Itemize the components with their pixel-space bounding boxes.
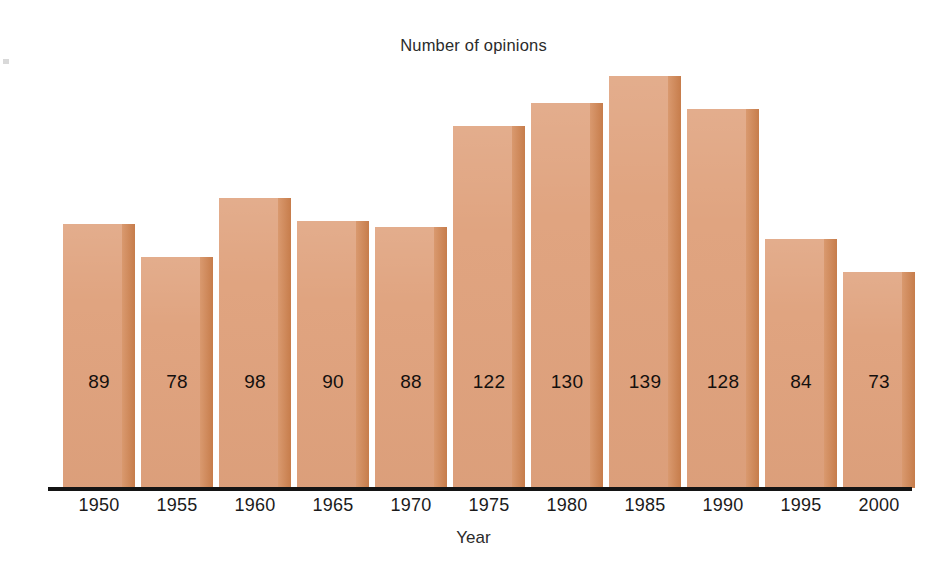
bar-value-label: 98 bbox=[219, 371, 291, 393]
bar-face bbox=[453, 126, 512, 488]
bar-value-label: 139 bbox=[609, 371, 681, 393]
x-tick-label: 1965 bbox=[297, 495, 369, 516]
bar-face bbox=[219, 198, 278, 488]
x-tick-label: 1955 bbox=[141, 495, 213, 516]
bar bbox=[687, 109, 759, 488]
bar-shade bbox=[590, 103, 603, 488]
bar-face bbox=[297, 221, 356, 488]
plot-area bbox=[48, 60, 912, 488]
bar-shade bbox=[668, 76, 681, 488]
bar bbox=[297, 221, 369, 488]
bar bbox=[609, 76, 681, 488]
bar bbox=[453, 126, 525, 488]
bar-shade bbox=[356, 221, 369, 488]
x-tick-label: 1950 bbox=[63, 495, 135, 516]
bar-face bbox=[375, 227, 434, 488]
bar-shade bbox=[122, 224, 135, 488]
bar-value-label: 73 bbox=[843, 371, 915, 393]
bar-value-label: 128 bbox=[687, 371, 759, 393]
chart-page: Number of opinions Year 8919507819559819… bbox=[0, 0, 947, 571]
bar-face bbox=[765, 239, 824, 488]
bar bbox=[531, 103, 603, 488]
bar bbox=[63, 224, 135, 488]
bar bbox=[375, 227, 447, 488]
x-tick-label: 1990 bbox=[687, 495, 759, 516]
bar-value-label: 88 bbox=[375, 371, 447, 393]
bar bbox=[765, 239, 837, 488]
x-tick-label: 1960 bbox=[219, 495, 291, 516]
bar-value-label: 78 bbox=[141, 371, 213, 393]
scan-artifact bbox=[3, 59, 9, 64]
bar bbox=[219, 198, 291, 488]
bar-shade bbox=[746, 109, 759, 488]
bar-face bbox=[687, 109, 746, 488]
x-tick-label: 1970 bbox=[375, 495, 447, 516]
bar-value-label: 89 bbox=[63, 371, 135, 393]
bar-shade bbox=[278, 198, 291, 488]
x-tick-label: 1985 bbox=[609, 495, 681, 516]
bar-value-label: 122 bbox=[453, 371, 525, 393]
bar-value-label: 90 bbox=[297, 371, 369, 393]
bar-face bbox=[609, 76, 668, 488]
chart-title: Number of opinions bbox=[0, 36, 947, 55]
x-tick-label: 1975 bbox=[453, 495, 525, 516]
bar-value-label: 84 bbox=[765, 371, 837, 393]
x-axis-title: Year bbox=[0, 528, 947, 548]
bar-face bbox=[63, 224, 122, 488]
bar-shade bbox=[512, 126, 525, 488]
bar-shade bbox=[824, 239, 837, 488]
x-tick-label: 2000 bbox=[843, 495, 915, 516]
x-axis-line bbox=[48, 487, 912, 491]
bar-shade bbox=[434, 227, 447, 488]
x-tick-label: 1980 bbox=[531, 495, 603, 516]
bar-value-label: 130 bbox=[531, 371, 603, 393]
x-tick-label: 1995 bbox=[765, 495, 837, 516]
bar-face bbox=[531, 103, 590, 488]
